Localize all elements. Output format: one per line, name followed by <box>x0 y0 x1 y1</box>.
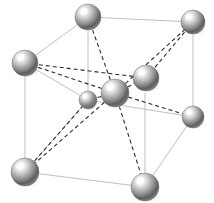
atom-body <box>133 65 159 91</box>
atom-body <box>131 173 159 201</box>
atom-body <box>12 50 38 76</box>
atom-body <box>101 79 129 107</box>
atom-body <box>182 106 204 128</box>
atom-body <box>181 10 205 34</box>
crystal-structure-figure <box>0 0 214 203</box>
atom-body <box>11 158 39 186</box>
atom-body <box>79 91 97 109</box>
crystal-lattice-canvas <box>0 0 214 203</box>
atom-body <box>75 4 101 30</box>
